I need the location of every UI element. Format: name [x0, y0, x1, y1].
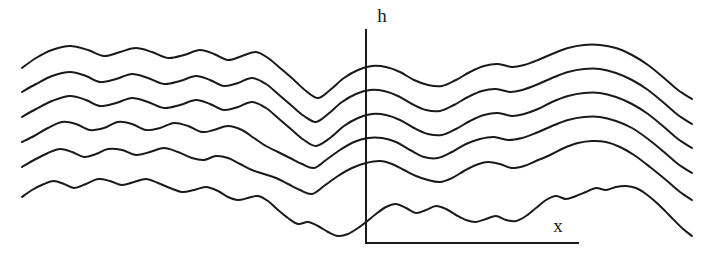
- profile-curve-4: [22, 117, 692, 173]
- profile-curves-group: [22, 45, 692, 236]
- profile-curve-5: [22, 141, 692, 200]
- axes-group: [366, 30, 578, 243]
- wavy-profile-figure: h x: [0, 0, 707, 263]
- figure-canvas: h x: [0, 0, 707, 263]
- axis-label-h: h: [377, 5, 387, 26]
- profile-curve-6: [22, 179, 692, 236]
- profile-curve-3: [22, 93, 692, 148]
- profile-curve-1: [22, 45, 692, 99]
- axis-label-x: x: [553, 215, 563, 236]
